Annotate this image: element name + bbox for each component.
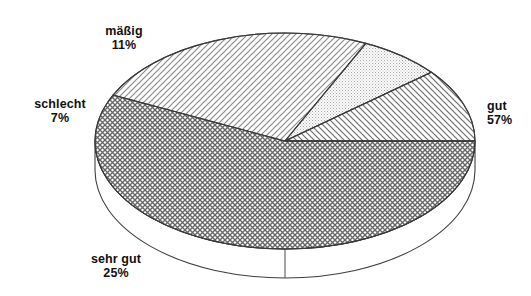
pie-label-sehr-gut-value: 25%	[64, 266, 168, 280]
pie-label-maessig-name: mäßig	[82, 24, 166, 38]
pie-label-sehr-gut-name: sehr gut	[64, 252, 168, 266]
pie-label-gut: gut 57%	[487, 99, 527, 127]
pie-label-schlecht-name: schlecht	[14, 97, 106, 111]
pie-label-maessig: mäßig 11%	[82, 24, 166, 52]
pie-label-gut-name: gut	[487, 99, 527, 113]
pie-label-schlecht: schlecht 7%	[14, 97, 106, 125]
pie-label-gut-value: 57%	[487, 113, 527, 127]
pie-chart: mäßig 11% schlecht 7% gut 57% sehr gut 2…	[0, 0, 531, 296]
pie-label-sehr-gut: sehr gut 25%	[64, 252, 168, 280]
pie-label-maessig-value: 11%	[82, 38, 166, 52]
pie-label-schlecht-value: 7%	[14, 111, 106, 125]
